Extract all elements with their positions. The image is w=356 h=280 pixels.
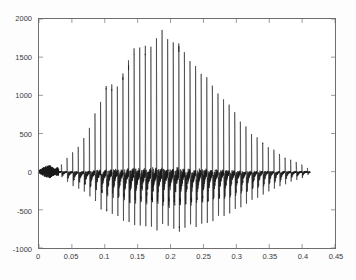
y-tick-label: 1000	[0, 91, 32, 100]
y-tick-label: 2000	[0, 14, 32, 23]
y-tick-label: 1500	[0, 52, 32, 61]
x-tick-label: 0.05	[64, 252, 79, 261]
x-tick-label: 0.45	[329, 252, 344, 261]
y-tick-label: -1000	[0, 245, 32, 254]
plot-area	[38, 18, 336, 249]
x-tick-label: 0.3	[231, 252, 241, 261]
x-tick-label: 0.2	[165, 252, 175, 261]
x-tick-label: 0	[36, 252, 40, 261]
x-tick-label: 0.15	[130, 252, 145, 261]
y-tick-label: 500	[0, 129, 32, 138]
x-tick-label: 0.25	[196, 252, 211, 261]
waveform-trace	[39, 19, 335, 248]
axis-tick-marks	[39, 19, 335, 248]
waveform-figure: -1000-5000500100015002000 00.050.10.150.…	[0, 0, 356, 280]
signal-path	[39, 30, 310, 232]
y-tick-label: 0	[0, 168, 32, 177]
x-tick-label: 0.35	[262, 252, 277, 261]
y-tick-label: -500	[0, 206, 32, 215]
x-tick-label: 0.1	[99, 252, 109, 261]
x-tick-label: 0.4	[298, 252, 308, 261]
